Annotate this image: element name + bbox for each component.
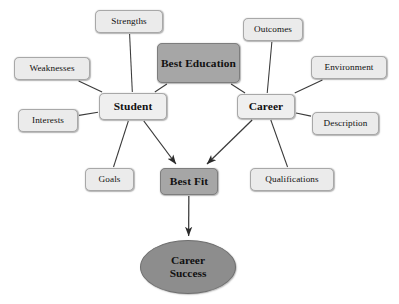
- node-environment-label: Environment: [324, 62, 373, 72]
- diagram-canvas: Strengths Weaknesses Interests Goals Stu…: [0, 0, 399, 304]
- node-student[interactable]: Student: [99, 93, 167, 120]
- node-description[interactable]: Description: [312, 112, 379, 135]
- edge-goals-to-student: [114, 121, 129, 167]
- node-outcomes-label: Outcomes: [254, 24, 292, 34]
- edge-weaknesses-to-student: [79, 81, 102, 92]
- node-career-success[interactable]: Career Success: [140, 240, 236, 294]
- node-weaknesses[interactable]: Weaknesses: [14, 57, 90, 80]
- node-best-education-label: Best Education: [161, 57, 236, 70]
- node-career-success-label: Career Success: [170, 254, 207, 281]
- node-career-label: Career: [249, 100, 284, 113]
- career-success-line-2: Success: [170, 267, 207, 280]
- node-best-fit[interactable]: Best Fit: [160, 168, 218, 195]
- node-qualifications[interactable]: Qualifications: [250, 168, 334, 191]
- edge-outcomes-to-career: [267, 42, 272, 93]
- node-description-label: Description: [324, 118, 368, 128]
- node-goals[interactable]: Goals: [85, 168, 134, 191]
- node-outcomes[interactable]: Outcomes: [243, 18, 303, 41]
- node-strengths-label: Strengths: [111, 16, 147, 26]
- edge-student-to-best-fit: [144, 121, 176, 164]
- edge-best-education-to-career: [231, 84, 245, 93]
- node-best-fit-label: Best Fit: [170, 175, 208, 188]
- edge-interests-to-student: [79, 112, 98, 115]
- node-goals-label: Goals: [99, 174, 121, 184]
- edge-career-to-best-fit: [207, 120, 252, 164]
- node-interests[interactable]: Interests: [18, 109, 78, 132]
- node-interests-label: Interests: [32, 115, 64, 125]
- edge-qualifications-to-career: [271, 120, 288, 167]
- edge-environment-to-career: [295, 80, 323, 93]
- edge-best-education-to-student: [155, 84, 167, 92]
- node-qualifications-label: Qualifications: [265, 174, 318, 184]
- node-student-label: Student: [114, 100, 153, 113]
- node-career[interactable]: Career: [237, 94, 295, 119]
- career-success-line-1: Career: [170, 254, 207, 267]
- node-strengths[interactable]: Strengths: [95, 10, 163, 33]
- edge-strengths-to-student: [130, 34, 133, 92]
- edge-description-to-career: [296, 113, 311, 116]
- node-best-education[interactable]: Best Education: [157, 43, 240, 83]
- node-environment[interactable]: Environment: [311, 56, 387, 79]
- node-weaknesses-label: Weaknesses: [29, 63, 74, 73]
